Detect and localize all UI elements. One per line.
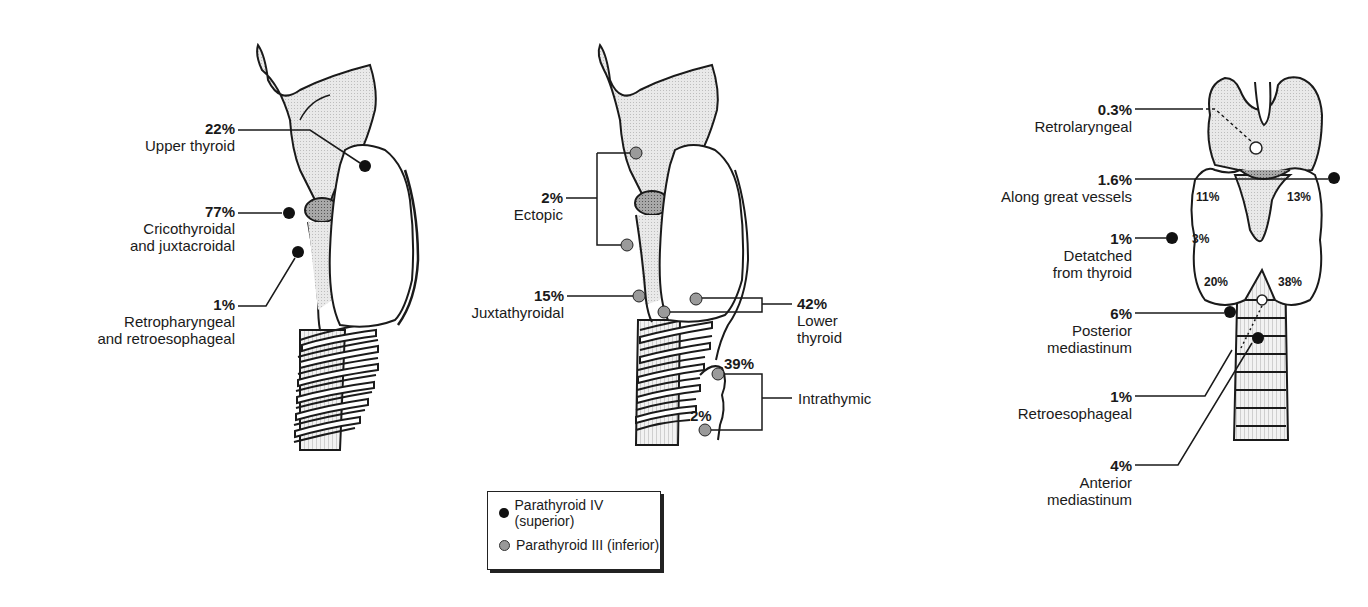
inner-label-13: 13% (1287, 190, 1311, 204)
label-great-vessels: 1.6% Along great vessels (940, 171, 1132, 205)
legend: Parathyroid IV (superior) Parathyroid II… (487, 491, 661, 570)
label-text: Along great vessels (940, 188, 1132, 205)
label-upper-thyroid: 22% Upper thyroid (60, 120, 235, 154)
gland-great-vessels (1328, 172, 1340, 184)
label-text: Posterior (960, 322, 1132, 339)
pct-ectopic: 2% (440, 189, 563, 206)
grey-dot-icon (499, 540, 510, 551)
label-text: Intrathymic (798, 390, 871, 407)
pct-lower-thyroid: 42% (797, 295, 842, 312)
gland-detached (1166, 232, 1178, 244)
label-posterior-mediastinum: 6% Posterior mediastinum (960, 305, 1132, 356)
label-text: Retroesophageal (960, 405, 1132, 422)
label-anterior-mediastinum: 4% Anterior mediastinum (960, 457, 1132, 508)
label-ectopic: 2% Ectopic (440, 189, 563, 223)
superior-gland-cricothyroidal (283, 207, 295, 219)
label-text: Retrolaryngeal (960, 118, 1132, 135)
inferior-gland-juxtathyroidal (633, 290, 645, 302)
pct-great-vessels: 1.6% (940, 171, 1132, 188)
superior-gland-upper-thyroid (359, 160, 371, 172)
black-dot-icon (499, 508, 509, 518)
legend-item-superior: Parathyroid IV (superior) (499, 502, 660, 524)
label-lower-thyroid: 42% Lower thyroid (797, 295, 842, 346)
inferior-gland-intrathymic-1 (712, 368, 724, 380)
label-text: Detatched (960, 247, 1132, 264)
pct-detached: 1% (960, 230, 1132, 247)
trachea-rings (294, 322, 378, 450)
label-detached: 1% Detatched from thyroid (960, 230, 1132, 281)
label-retrolaryngeal: 0.3% Retrolaryngeal (960, 101, 1132, 135)
label-intrathymic: Intrathymic (798, 390, 871, 407)
label-retropharyngeal: 1% Retropharyngeal and retroesophageal (40, 296, 235, 347)
label-text: from thyroid (960, 264, 1132, 281)
label-text: Juxtathyroidal (420, 304, 564, 321)
inner-label-3: 3% (1192, 232, 1209, 246)
label-text: and retroesophageal (40, 330, 235, 347)
label-text: thyroid (797, 329, 842, 346)
pct-intrathymic-39: 39% (724, 355, 754, 372)
pct-intrathymic-2: 2% (690, 407, 712, 424)
label-text: Retropharyngeal (40, 313, 235, 330)
gland-posterior-mediastinum (1224, 306, 1236, 318)
label-2-intrathymic: 2% (690, 407, 712, 424)
legend-label: Parathyroid III (inferior) (516, 537, 659, 553)
pct-upper-thyroid: 22% (60, 120, 235, 137)
legend-item-inferior: Parathyroid III (inferior) (499, 534, 660, 556)
inferior-gland-lower-thyroid-2 (658, 306, 670, 318)
inferior-gland-ectopic-upper (630, 147, 642, 159)
inferior-gland-lower-thyroid-1 (690, 293, 702, 305)
pct-juxtathyroidal: 15% (420, 287, 564, 304)
label-text: Upper thyroid (60, 137, 235, 154)
label-text: Anterior (960, 474, 1132, 491)
legend-label: Parathyroid IV (superior) (515, 497, 660, 529)
gland-retrolaryngeal (1250, 142, 1262, 154)
pct-retropharyngeal: 1% (40, 296, 235, 313)
label-retroesophageal: 1% Retroesophageal (960, 388, 1132, 422)
pct-retroesophageal: 1% (960, 388, 1132, 405)
label-text: mediastinum (960, 339, 1132, 356)
label-text: Cricothyroidal (60, 220, 235, 237)
inner-label-38: 38% (1278, 275, 1302, 289)
label-text: mediastinum (960, 491, 1132, 508)
label-39: 39% (724, 355, 754, 372)
pct-anterior-mediastinum: 4% (960, 457, 1132, 474)
panel-1-larynx (257, 45, 418, 450)
pct-retrolaryngeal: 0.3% (960, 101, 1132, 118)
gland-anterior-mediastinum (1252, 332, 1264, 344)
inner-label-11: 11% (1196, 190, 1219, 204)
label-cricothyroidal: 77% Cricothyroidal and juxtacroidal (60, 203, 235, 254)
inferior-gland-ectopic-lower (621, 239, 633, 251)
inner-label-20: 20% (1204, 275, 1228, 289)
label-text: Ectopic (440, 206, 563, 223)
inferior-gland-intrathymic-2 (699, 424, 711, 436)
label-text: and juxtacroidal (60, 237, 235, 254)
pct-cricothyroidal: 77% (60, 203, 235, 220)
label-juxtathyroidal: 15% Juxtathyroidal (420, 287, 564, 321)
gland-open-lower (1257, 295, 1267, 305)
superior-gland-retropharyngeal (292, 246, 304, 258)
thyroid-lobe (330, 145, 413, 327)
pct-posterior-mediastinum: 6% (960, 305, 1132, 322)
thyroid-lobe (660, 145, 743, 322)
label-text: Lower (797, 312, 842, 329)
